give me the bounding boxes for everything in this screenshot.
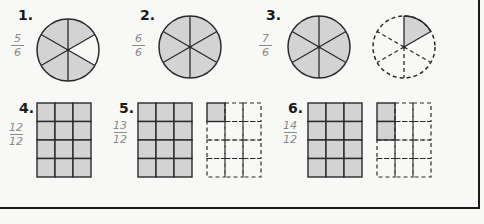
problem-4-number: 4. xyxy=(19,101,34,115)
problem-1-fraction: 5 6 xyxy=(11,33,24,58)
dashed-grid-whole xyxy=(207,103,261,177)
circle-whole xyxy=(37,19,99,81)
problem-2-circle-model xyxy=(158,15,222,79)
problem-5-number: 5. xyxy=(119,101,134,115)
problem-6-grid-model xyxy=(307,102,437,182)
circle-whole xyxy=(159,16,221,78)
problem-5-grid-model xyxy=(137,102,267,182)
denominator: 6 xyxy=(135,47,142,58)
problem-5-fraction: 13 12 xyxy=(113,120,127,145)
numerator: 13 xyxy=(113,120,127,131)
problem-3-number: 3. xyxy=(266,8,281,22)
problem-6-fraction: 14 12 xyxy=(283,120,297,145)
problem-3-circle-model xyxy=(287,15,437,79)
grid-whole xyxy=(138,103,192,177)
problem-1-circle-model xyxy=(36,18,100,82)
grid-whole xyxy=(308,103,362,177)
denominator: 6 xyxy=(14,47,21,58)
problem-3-fraction: 7 6 xyxy=(259,33,272,58)
numerator: 14 xyxy=(283,120,297,131)
circle-whole xyxy=(288,16,350,78)
problem-2-number: 2. xyxy=(140,8,155,22)
dashed-circle-whole xyxy=(373,16,435,78)
denominator: 6 xyxy=(262,47,269,58)
dashed-grid-whole xyxy=(377,103,431,177)
problem-2-fraction: 6 6 xyxy=(132,33,145,58)
problem-4-grid-model xyxy=(36,102,96,182)
problem-1-number: 1. xyxy=(18,8,33,22)
numerator: 7 xyxy=(262,33,269,44)
numerator: 6 xyxy=(135,33,142,44)
denominator: 12 xyxy=(9,136,23,147)
numerator: 5 xyxy=(14,33,21,44)
grid-whole xyxy=(37,103,91,177)
problem-4-fraction: 12 12 xyxy=(9,122,23,147)
denominator: 12 xyxy=(283,134,297,145)
numerator: 12 xyxy=(9,122,23,133)
denominator: 12 xyxy=(113,134,127,145)
problem-6-number: 6. xyxy=(288,101,303,115)
